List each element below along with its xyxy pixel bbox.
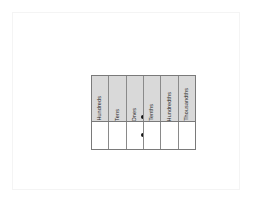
body-cell-tens[interactable] bbox=[109, 122, 126, 149]
header-label-tens: Tens bbox=[115, 107, 120, 121]
body-cell-hundredths[interactable] bbox=[161, 122, 178, 149]
header-cell-tens: Tens bbox=[109, 76, 126, 121]
header-cell-ones: Ones bbox=[127, 76, 144, 121]
header-cell-thousandths: Thousandths bbox=[179, 76, 195, 121]
header-cell-hundredths: Hundredths bbox=[161, 76, 178, 121]
header-label-thousandths: Thousandths bbox=[184, 86, 189, 121]
header-label-ones: Ones bbox=[132, 106, 137, 121]
place-value-body-row bbox=[92, 122, 195, 149]
place-value-header-row: Hundreds Tens Ones Tenths Hundredths Tho… bbox=[92, 76, 195, 122]
body-cell-tenths[interactable] bbox=[144, 122, 161, 149]
body-cell-thousandths[interactable] bbox=[179, 122, 195, 149]
body-cell-hundreds[interactable] bbox=[92, 122, 109, 149]
body-cell-ones[interactable] bbox=[127, 122, 144, 149]
header-label-tenths: Tenths bbox=[149, 102, 154, 121]
header-label-hundreds: Hundreds bbox=[97, 94, 102, 121]
header-cell-tenths: Tenths bbox=[144, 76, 161, 121]
header-label-hundredths: Hundredths bbox=[167, 90, 172, 121]
header-cell-hundreds: Hundreds bbox=[92, 76, 109, 121]
page-sheet: Hundreds Tens Ones Tenths Hundredths Tho… bbox=[12, 12, 240, 190]
place-value-chart: Hundreds Tens Ones Tenths Hundredths Tho… bbox=[91, 75, 196, 150]
